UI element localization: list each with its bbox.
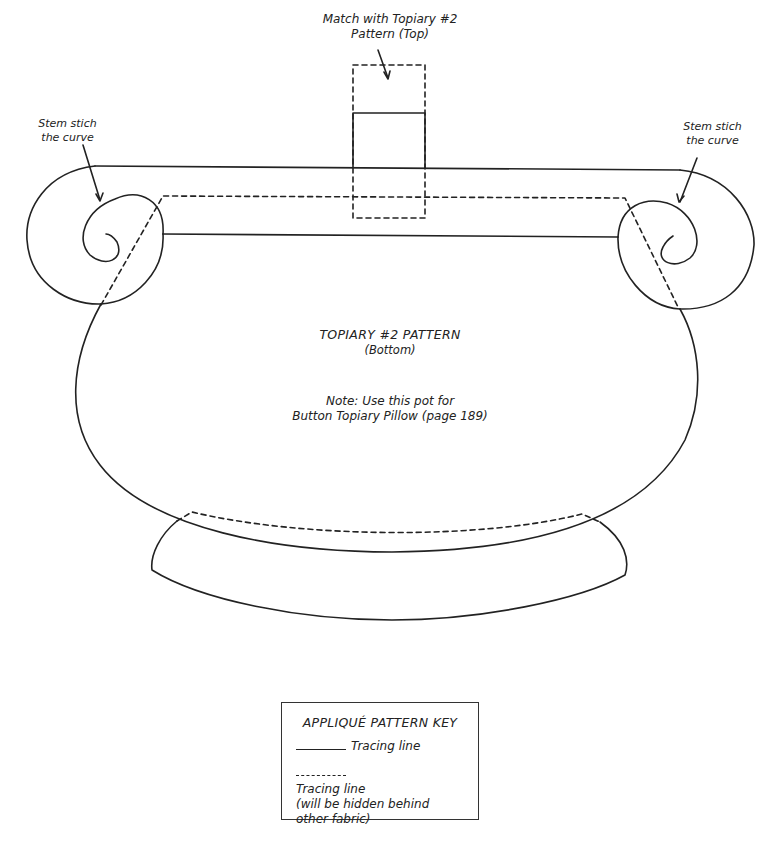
dashed-line-sample (296, 775, 346, 776)
left-scroll-outer (27, 166, 101, 304)
key-dashed-row: Tracing line (will be hidden behind othe… (296, 767, 478, 827)
right-scroll-spiral (618, 201, 697, 264)
pot-base-outline (152, 521, 627, 620)
base-hidden-dashed (177, 512, 600, 533)
rim-bottom-line (163, 234, 618, 237)
stem-stitch-right-label: Stem stich the curve (665, 120, 760, 148)
pattern-note: Note: Use this pot for Button Topiary Pi… (270, 394, 510, 424)
arrow-top (378, 50, 388, 78)
arrow-right (680, 158, 697, 202)
key-solid-row: Tracing line (296, 739, 420, 754)
arrow-left (83, 145, 100, 200)
solid-line-sample (296, 749, 346, 750)
match-top-label: Match with Topiary #2 Pattern (Top) (300, 12, 480, 42)
right-scroll-outer (680, 170, 754, 309)
key-title: APPLIQUÉ PATTERN KEY (282, 715, 478, 730)
stem-dashed-outline (353, 65, 425, 218)
rim-hidden-dashed (101, 196, 678, 307)
rim-top-line (95, 166, 680, 170)
stem-solid-outline (353, 113, 425, 168)
stem-stitch-left-label: Stem stich the curve (20, 117, 115, 145)
pattern-title: TOPIARY #2 PATTERN (Bottom) (270, 327, 510, 357)
left-scroll-spiral (83, 195, 163, 261)
pattern-key-box: APPLIQUÉ PATTERN KEY Tracing line Tracin… (281, 702, 479, 820)
